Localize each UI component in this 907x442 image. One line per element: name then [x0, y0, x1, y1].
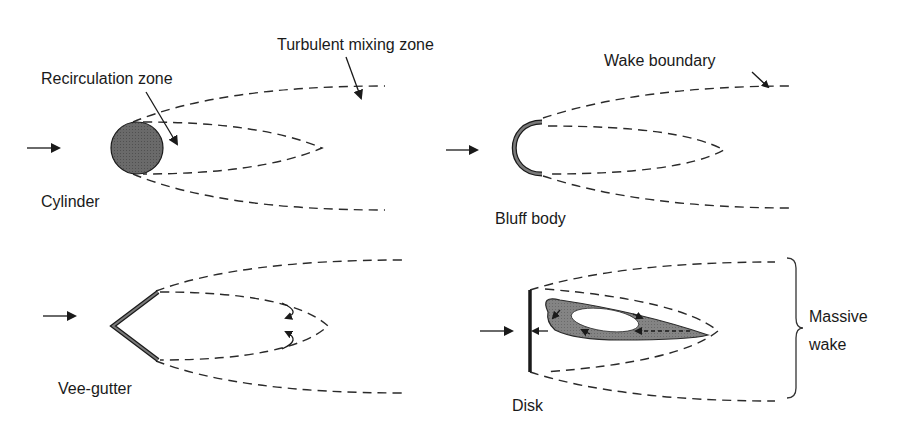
label-bluff-body: Bluff body [495, 210, 566, 227]
massive-wake-brace [787, 258, 803, 398]
vortex-arrow-icon [282, 303, 293, 318]
label-recirculation-zone: Recirculation zone [41, 70, 173, 87]
label-turbulent-mixing-zone: Turbulent mixing zone [277, 36, 434, 53]
recirculation-boundary [143, 122, 322, 174]
outer-wake-boundary [530, 372, 775, 401]
panel-bluff-body: Wake boundary Bluff body [446, 52, 792, 227]
panel-vee-gutter: Vee-gutter [43, 260, 402, 397]
panel-cylinder: Recirculation zone Turbulent mixing zone… [27, 36, 434, 210]
outer-wake-boundary [133, 86, 385, 122]
recirculation-boundary [548, 126, 724, 174]
panel-disk: Massive wake Disk [480, 258, 868, 414]
label-cylinder: Cylinder [41, 193, 100, 210]
label-disk: Disk [512, 397, 544, 414]
flame-holder-wake-diagram: Recirculation zone Turbulent mixing zone… [0, 0, 907, 442]
outer-wake-boundary [543, 86, 792, 118]
recirculation-boundary [160, 292, 328, 360]
label-wake-boundary: Wake boundary [604, 52, 715, 69]
outer-wake-boundary [133, 174, 385, 210]
outer-wake-boundary [156, 260, 402, 291]
vee-gutter-fill [113, 292, 158, 360]
label-wake: wake [808, 336, 846, 353]
cylinder-shape [111, 122, 163, 174]
outer-wake-boundary [543, 176, 792, 208]
label-vee-gutter: Vee-gutter [58, 380, 133, 397]
outer-wake-boundary [156, 361, 402, 393]
label-massive: Massive [809, 308, 868, 325]
vee-gutter-shape [113, 292, 158, 360]
bluff-body-shape [514, 122, 542, 174]
vortex-arrow-icon [282, 332, 293, 349]
wake-boundary-pointer-icon [752, 72, 768, 87]
outer-wake-boundary [530, 262, 775, 290]
mixing-zone-pointer-icon [346, 57, 361, 98]
